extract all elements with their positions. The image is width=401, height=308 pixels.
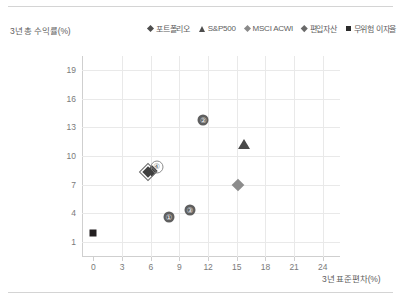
legend-item-included-assets[interactable]: 편입자산 [302,23,337,34]
x-axis-tick [93,257,94,261]
divider-top [8,6,393,7]
gridline-horizontal [82,70,340,71]
data-point-label[interactable]: ① [163,211,174,222]
legend-item-portfolio[interactable]: 포트폴리오 [148,23,190,34]
gridline-horizontal [82,213,340,214]
y-axis-tick-label: 16 [46,94,76,104]
data-point-s-p500[interactable] [238,139,250,149]
x-axis-tick [294,257,295,261]
x-axis-tick [151,257,152,261]
x-axis-tick-label: 15 [222,262,252,272]
legend-item-risk-free-rate[interactable]: 무위험 이자율 [346,23,396,34]
data-point-msci-acwi[interactable] [231,178,244,191]
y-axis-tick-label: 19 [46,65,76,75]
x-axis-tick [179,257,180,261]
x-axis-tick [265,257,266,261]
chart-figure: 3년 총 수익률(%) 3년 표준편차(%) 포트폴리오 S&P500 MSCI… [0,0,401,308]
y-axis-tick-label: 13 [46,122,76,132]
gridline-horizontal [82,156,340,157]
x-axis-tick-label: 21 [279,262,309,272]
x-axis-tick [208,257,209,261]
gridline-horizontal [82,127,340,128]
plot-area: ①②③④ [82,56,340,257]
gridline-horizontal [82,99,340,100]
x-axis-tick-label: 0 [78,262,108,272]
gridline-horizontal [82,242,340,243]
y-axis-tick-label: 7 [46,180,76,190]
y-axis-title: 3년 총 수익률(%) [10,24,70,36]
square-marker-icon [346,26,351,31]
diamond-marker-icon [301,25,307,31]
gridline-vertical [122,56,123,257]
x-axis-tick [323,257,324,261]
gridline-vertical [151,56,152,257]
x-axis-tick-label: 12 [193,262,223,272]
gridline-vertical [294,56,295,257]
legend-label: MSCI ACWI [253,24,293,33]
gridline-vertical [265,56,266,257]
diamond-marker-icon [147,25,154,32]
legend-label: 편입자산 [310,23,337,34]
x-axis-title: 3년 표준편차(%) [322,272,380,284]
data-point--[interactable] [90,230,97,237]
x-axis-tick-label: 24 [308,262,338,272]
x-axis-tick-label: 3 [107,262,137,272]
gridline-horizontal [82,185,340,186]
divider-bottom [8,292,393,293]
data-point-label[interactable]: ③ [184,205,195,216]
x-axis-tick-label: 6 [136,262,166,272]
legend-item-msci-acwi[interactable]: MSCI ACWI [245,24,293,33]
y-axis-tick-label: 10 [46,151,76,161]
gridline-vertical [323,56,324,257]
data-point-label[interactable]: ② [198,114,209,125]
y-axis-tick-label: 4 [46,208,76,218]
y-axis-tick-label: 1 [46,237,76,247]
legend-item-sp500[interactable]: S&P500 [199,24,236,33]
gridline-vertical [179,56,180,257]
triangle-marker-icon [199,26,205,32]
x-axis-line [82,256,340,257]
gridline-vertical [237,56,238,257]
gridline-vertical [208,56,209,257]
x-axis-tick [237,257,238,261]
legend-label: 포트폴리오 [156,23,190,34]
x-axis-tick [122,257,123,261]
legend-label: 무위험 이자율 [354,23,396,34]
diamond-marker-icon [244,25,251,32]
x-axis-tick-label: 9 [164,262,194,272]
legend-label: S&P500 [208,24,236,33]
x-axis-tick-label: 18 [250,262,280,272]
chart-legend: 포트폴리오 S&P500 MSCI ACWI 편입자산 무위험 이자율 [148,23,396,34]
